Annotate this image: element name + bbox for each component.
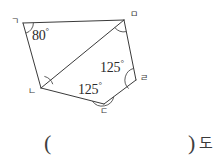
angle-arc-n xyxy=(44,76,52,84)
vertex-label-g: ㄱ xyxy=(11,17,19,26)
angle-value-r: 125 xyxy=(100,60,120,75)
angle-value-d: 125 xyxy=(78,82,98,97)
degree-sign-r: ° xyxy=(120,58,123,68)
answer-row: ( ) 도 xyxy=(0,130,224,160)
answer-unit-label: 도 xyxy=(199,135,213,150)
angle-value-g: 80 xyxy=(32,28,46,43)
degree-sign-d: ° xyxy=(98,80,101,90)
edge-g-m xyxy=(23,20,124,23)
degree-sign-g: ° xyxy=(46,26,49,36)
vertex-label-r: ㄹ xyxy=(140,74,148,83)
vertex-label-d: ㄷ xyxy=(100,107,108,116)
answer-close-paren: ) xyxy=(188,132,195,154)
edge-m-r xyxy=(124,20,136,80)
answer-open-paren: ( xyxy=(44,132,51,154)
angle-label-r: 125° xyxy=(100,61,124,75)
angle-arc-r xyxy=(125,68,134,88)
vertex-label-m: ㅁ xyxy=(130,10,138,19)
angle-label-g: 80° xyxy=(32,29,49,43)
angle-label-d: 125° xyxy=(78,83,102,97)
angle-arc-m xyxy=(115,28,127,32)
edge-r-d xyxy=(104,80,136,104)
diagonal-n-m xyxy=(41,20,124,88)
answer-blank-field[interactable] xyxy=(58,150,188,151)
vertex-label-n: ㄴ xyxy=(28,87,36,96)
